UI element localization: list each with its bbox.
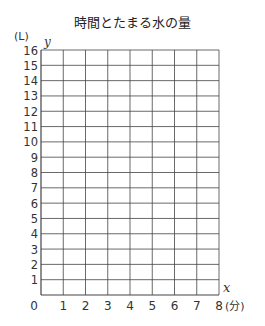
grid-chart: 01234567812345678910111213141516x(分)(L)y <box>0 0 265 326</box>
y-tick-label: 5 <box>31 212 38 226</box>
x-tick-label: 5 <box>148 299 156 313</box>
y-axis-unit: (L) <box>14 30 29 43</box>
y-tick-label: 13 <box>23 89 38 103</box>
x-axis-unit: (分) <box>225 300 245 313</box>
y-tick-label: 15 <box>23 59 38 73</box>
y-tick-label: 2 <box>31 258 38 272</box>
y-axis-label: y <box>43 35 51 49</box>
x-tick-label: 0 <box>30 299 38 313</box>
y-tick-label: 16 <box>23 44 38 58</box>
y-tick-label: 8 <box>31 166 38 180</box>
y-tick-label: 12 <box>23 105 38 119</box>
y-tick-label: 9 <box>31 151 38 165</box>
y-tick-label: 10 <box>23 135 38 149</box>
x-axis-label: x <box>223 280 231 295</box>
x-tick-label: 6 <box>171 299 179 313</box>
x-tick-label: 7 <box>193 299 201 313</box>
y-tick-label: 6 <box>31 197 38 211</box>
y-tick-label: 4 <box>31 227 38 241</box>
x-tick-label: 2 <box>82 299 90 313</box>
y-tick-label: 7 <box>31 181 38 195</box>
y-tick-label: 3 <box>31 243 38 257</box>
x-tick-label: 1 <box>59 299 67 313</box>
y-tick-label: 14 <box>23 74 38 88</box>
y-tick-label: 11 <box>23 120 38 134</box>
x-tick-label: 3 <box>104 299 112 313</box>
x-tick-label: 4 <box>126 299 134 313</box>
x-tick-label: 8 <box>215 299 223 313</box>
y-tick-label: 1 <box>31 273 38 287</box>
